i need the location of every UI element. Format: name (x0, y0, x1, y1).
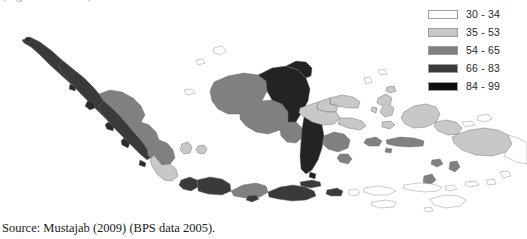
legend-row: 66 - 83 (428, 59, 524, 77)
region-natuna (213, 46, 226, 55)
region-yapen (462, 121, 475, 127)
legend-label: 54 - 65 (466, 44, 500, 56)
region-riau-islands (184, 89, 195, 95)
legend-swatch (428, 10, 458, 19)
region-lombok (348, 189, 360, 196)
region-west-java (197, 177, 231, 195)
region-alor (445, 185, 457, 191)
region-talaud (378, 69, 387, 75)
region-sulawesi-east-arm (338, 118, 366, 130)
region-rote (424, 207, 433, 212)
region-papua-birdneck (434, 120, 462, 135)
region-wetar (465, 181, 479, 187)
legend-swatch (428, 64, 458, 73)
region-enggano (139, 160, 146, 167)
caption-remnant-text: (Figure continued) (2, 0, 92, 3)
region-buton (337, 154, 352, 164)
legend-label: 84 - 99 (466, 80, 500, 92)
region-anambas (196, 59, 205, 65)
region-sumbawa (364, 186, 396, 195)
legend-label: 66 - 83 (466, 62, 500, 74)
region-south-sulawesi (300, 117, 324, 174)
region-kei (431, 159, 443, 167)
legend-swatch (428, 82, 458, 91)
region-morotai (386, 86, 396, 93)
legend-row: 35 - 53 (428, 23, 524, 41)
region-bali (326, 188, 343, 196)
region-papua (452, 128, 512, 156)
region-obi (382, 121, 395, 129)
region-west-papua (401, 104, 440, 128)
region-halmahera (377, 94, 394, 117)
region-sumba (371, 200, 396, 208)
source-note: Source: Mustajab (2009) (BPS data 2005). (2, 221, 215, 236)
legend-swatch (428, 46, 458, 55)
region-biak (477, 114, 492, 122)
legend-row: 30 - 34 (428, 5, 524, 23)
region-tanimbar-outline (500, 171, 511, 178)
region-yogyakarta (246, 195, 259, 202)
map-legend: 30 - 34 35 - 53 54 - 65 66 - 83 84 - 99 (428, 5, 524, 95)
region-buru (364, 137, 382, 146)
region-flores (403, 183, 442, 192)
region-banten (179, 177, 198, 191)
region-belitung (196, 145, 207, 154)
legend-row: 54 - 65 (428, 41, 524, 59)
region-weh (25, 37, 31, 42)
legend-label: 35 - 53 (466, 26, 500, 38)
region-ternate (371, 107, 377, 113)
region-babar (486, 179, 496, 185)
region-aru (449, 161, 460, 172)
region-southeast-sulawesi (323, 132, 350, 152)
region-ambon (385, 148, 392, 153)
region-seram (386, 137, 424, 147)
region-sangihe (364, 77, 372, 84)
region-timor (430, 195, 466, 208)
legend-label: 30 - 34 (466, 8, 500, 20)
region-selayar (309, 172, 316, 179)
legend-swatch (428, 28, 458, 37)
region-bangka (180, 142, 192, 154)
legend-row: 84 - 99 (428, 77, 524, 95)
